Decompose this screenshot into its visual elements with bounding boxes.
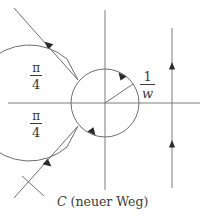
angle-label-upper: π 4 [30, 62, 42, 91]
radius-denominator: w [140, 86, 155, 100]
axes-group [8, 10, 200, 190]
angle-lower-denominator: 4 [30, 125, 42, 139]
contour-ray-lower-arrow-icon [43, 159, 52, 167]
angle-upper-denominator: 4 [30, 77, 42, 91]
caption-curve-symbol: C [57, 194, 67, 209]
angle-label-lower: π 4 [30, 110, 42, 139]
angle-lower-numerator: π [30, 110, 42, 123]
radius-fraction-bar [140, 84, 155, 85]
branch-arrow-lower-icon [169, 140, 175, 147]
radius-label: 1 w [140, 70, 155, 100]
small-circle-radius-line [105, 84, 133, 103]
angle-upper-fraction-bar [30, 75, 42, 76]
radius-numerator: 1 [140, 70, 155, 84]
angle-lower-fraction-bar [30, 123, 42, 124]
contour-figure: π 4 π 4 1 w C (neuer Weg) [0, 0, 208, 222]
branch-arrow-upper-icon [169, 62, 175, 69]
caption-description: (neuer Weg) [71, 194, 149, 209]
figure-caption: C (neuer Weg) [57, 196, 148, 209]
angle-upper-numerator: π [30, 62, 42, 75]
branch-line-group [169, 28, 175, 188]
